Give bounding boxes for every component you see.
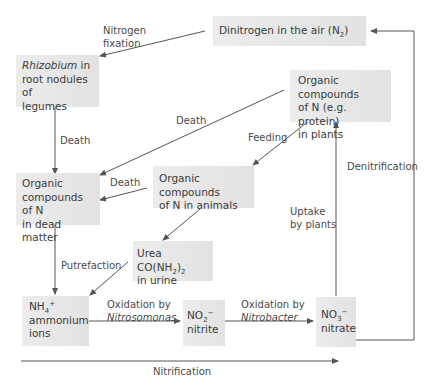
- label-line: Oxidation by: [107, 299, 171, 310]
- dead-line3: in dead matter: [22, 218, 61, 244]
- rhizobium-text1: in: [77, 59, 90, 71]
- nitrite-line2: nitrite: [187, 323, 219, 335]
- node-dinitrogen-tail: ): [344, 24, 348, 36]
- subscript: 2: [181, 268, 185, 276]
- superscript: −: [342, 308, 348, 316]
- superscript: +: [49, 300, 55, 308]
- dead-line1: Organic: [22, 177, 63, 189]
- rhizobium-text3: legumes: [22, 100, 67, 112]
- label-death-rhizobium: Death: [60, 134, 90, 147]
- nitrite-formula: NO: [187, 309, 203, 321]
- label-line: Uptake: [290, 206, 325, 217]
- label-line-italic: Nitrobacter: [241, 312, 298, 323]
- arrow-animals-urea: [163, 209, 200, 240]
- urea-line2: in urine: [137, 274, 177, 286]
- label-line: fixation: [103, 38, 141, 49]
- node-dinitrogen: Dinitrogen in the air (N2): [213, 16, 366, 46]
- node-dinitrogen-text: Dinitrogen in the air (N: [219, 24, 340, 36]
- node-animals: Organic compounds of N in animals: [153, 166, 254, 208]
- label-nitrogen-fixation: Nitrogen fixation: [103, 24, 146, 50]
- label-line: by plants: [290, 219, 336, 230]
- node-nitrite: NO2− nitrite: [183, 300, 225, 346]
- node-plants: Organic compounds of N (e.g. protein) in…: [290, 70, 391, 122]
- ammonium-line3: ions: [29, 327, 50, 339]
- label-death-plants: Death: [176, 114, 206, 127]
- rhizobium-text2: root nodules of: [22, 73, 88, 99]
- dead-line2: compounds of N: [22, 191, 83, 217]
- arrow-death-animals: [100, 188, 147, 200]
- label-uptake: Uptake by plants: [290, 205, 336, 231]
- node-ammonium: NH4+ ammonium ions: [22, 296, 89, 346]
- label-death-animals: Death: [110, 176, 140, 189]
- node-nitrate: NO3− nitrate: [316, 297, 356, 347]
- nitrate-formula: NO: [321, 308, 337, 320]
- animals-line1: Organic compounds: [159, 172, 220, 198]
- nitrate-line2: nitrate: [321, 322, 356, 334]
- label-putrefaction: Putrefaction: [61, 259, 121, 272]
- node-rhizobium: Rhizobium in root nodules of legumes: [16, 55, 99, 107]
- label-denitrification: Denitrification: [347, 160, 418, 173]
- node-urea: Urea CO(NH2)2 in urine: [133, 241, 213, 281]
- ammonium-formula: NH: [29, 300, 45, 312]
- ammonium-line2: ammonium: [29, 314, 89, 326]
- label-line: Nitrogen: [103, 25, 146, 36]
- plants-line3: in plants: [298, 128, 343, 140]
- label-line-italic: Nitrosomonas: [107, 312, 176, 323]
- animals-line2: of N in animals: [159, 199, 238, 211]
- rhizobium-italic: Rhizobium: [22, 59, 77, 71]
- plants-line1: Organic compounds: [298, 74, 359, 100]
- label-nitrification: Nitrification: [153, 365, 211, 378]
- urea-text: Urea CO(NH: [137, 247, 172, 273]
- plants-line2: of N (e.g. protein): [298, 101, 347, 127]
- label-line: Oxidation by: [241, 299, 305, 310]
- superscript: −: [208, 309, 214, 317]
- node-dead-matter: Organic compounds of N in dead matter: [16, 173, 100, 225]
- label-oxidation-nitrosomonas: Oxidation by Nitrosomonas: [107, 298, 176, 324]
- label-oxidation-nitrobacter: Oxidation by Nitrobacter: [241, 298, 305, 324]
- label-feeding: Feeding: [248, 131, 287, 144]
